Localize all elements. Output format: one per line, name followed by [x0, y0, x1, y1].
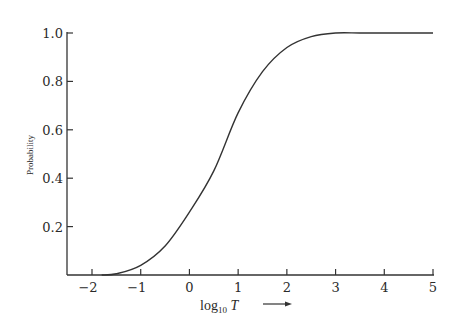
x-ticks: −2−1012345 [78, 269, 437, 295]
y-axis-title: Probability [25, 135, 35, 175]
x-tick-label: 3 [331, 280, 339, 295]
x-tick-label: 5 [429, 280, 437, 295]
x-axis-title-var: T [227, 298, 240, 313]
y-tick-label: 1.0 [42, 26, 63, 41]
x-axis-title-log: log [200, 298, 218, 313]
x-tick-label: 1 [234, 280, 242, 295]
y-tick-label: 0.8 [42, 74, 63, 89]
axes [67, 32, 434, 275]
x-tick-label: 2 [283, 280, 291, 295]
x-tick-label: −1 [127, 280, 146, 295]
y-tick-label: 0.4 [42, 171, 63, 186]
probability-chart: 0.20.40.60.81.0 −2−1012345 Probability l… [0, 0, 457, 330]
x-axis-title: log10 T [200, 298, 239, 315]
probability-curve [102, 33, 433, 275]
x-tick-label: 4 [380, 280, 388, 295]
arrow-right-icon [263, 302, 292, 307]
x-tick-label: 0 [185, 280, 193, 295]
y-tick-label: 0.6 [42, 123, 63, 138]
y-ticks: 0.20.40.60.81.0 [42, 26, 73, 235]
y-tick-label: 0.2 [42, 220, 63, 235]
x-tick-label: −2 [78, 280, 97, 295]
